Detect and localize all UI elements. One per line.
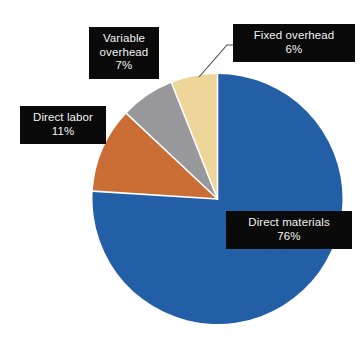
callout-direct-materials-label: Direct materials bbox=[233, 216, 345, 230]
callout-direct-materials-value: 76% bbox=[233, 230, 345, 244]
callout-fixed-overhead[interactable]: Fixed overhead 6% bbox=[233, 24, 355, 62]
callout-direct-labor-label: Direct labor bbox=[27, 111, 99, 125]
callout-fixed-overhead-label: Fixed overhead bbox=[240, 29, 348, 43]
leader-line-fixed-overhead bbox=[199, 45, 236, 77]
callout-direct-materials[interactable]: Direct materials 76% bbox=[226, 211, 352, 249]
callout-variable-overhead-label-line2: overhead bbox=[96, 46, 152, 60]
callout-variable-overhead-label-line1: Variable bbox=[96, 32, 152, 46]
pie-chart: Fixed overhead 6% Variable overhead 7% D… bbox=[0, 0, 364, 353]
callout-direct-labor-value: 11% bbox=[27, 125, 99, 139]
callout-fixed-overhead-value: 6% bbox=[240, 43, 348, 57]
callout-direct-labor[interactable]: Direct labor 11% bbox=[20, 106, 106, 144]
callout-variable-overhead-value: 7% bbox=[96, 59, 152, 73]
callout-variable-overhead[interactable]: Variable overhead 7% bbox=[89, 27, 159, 79]
